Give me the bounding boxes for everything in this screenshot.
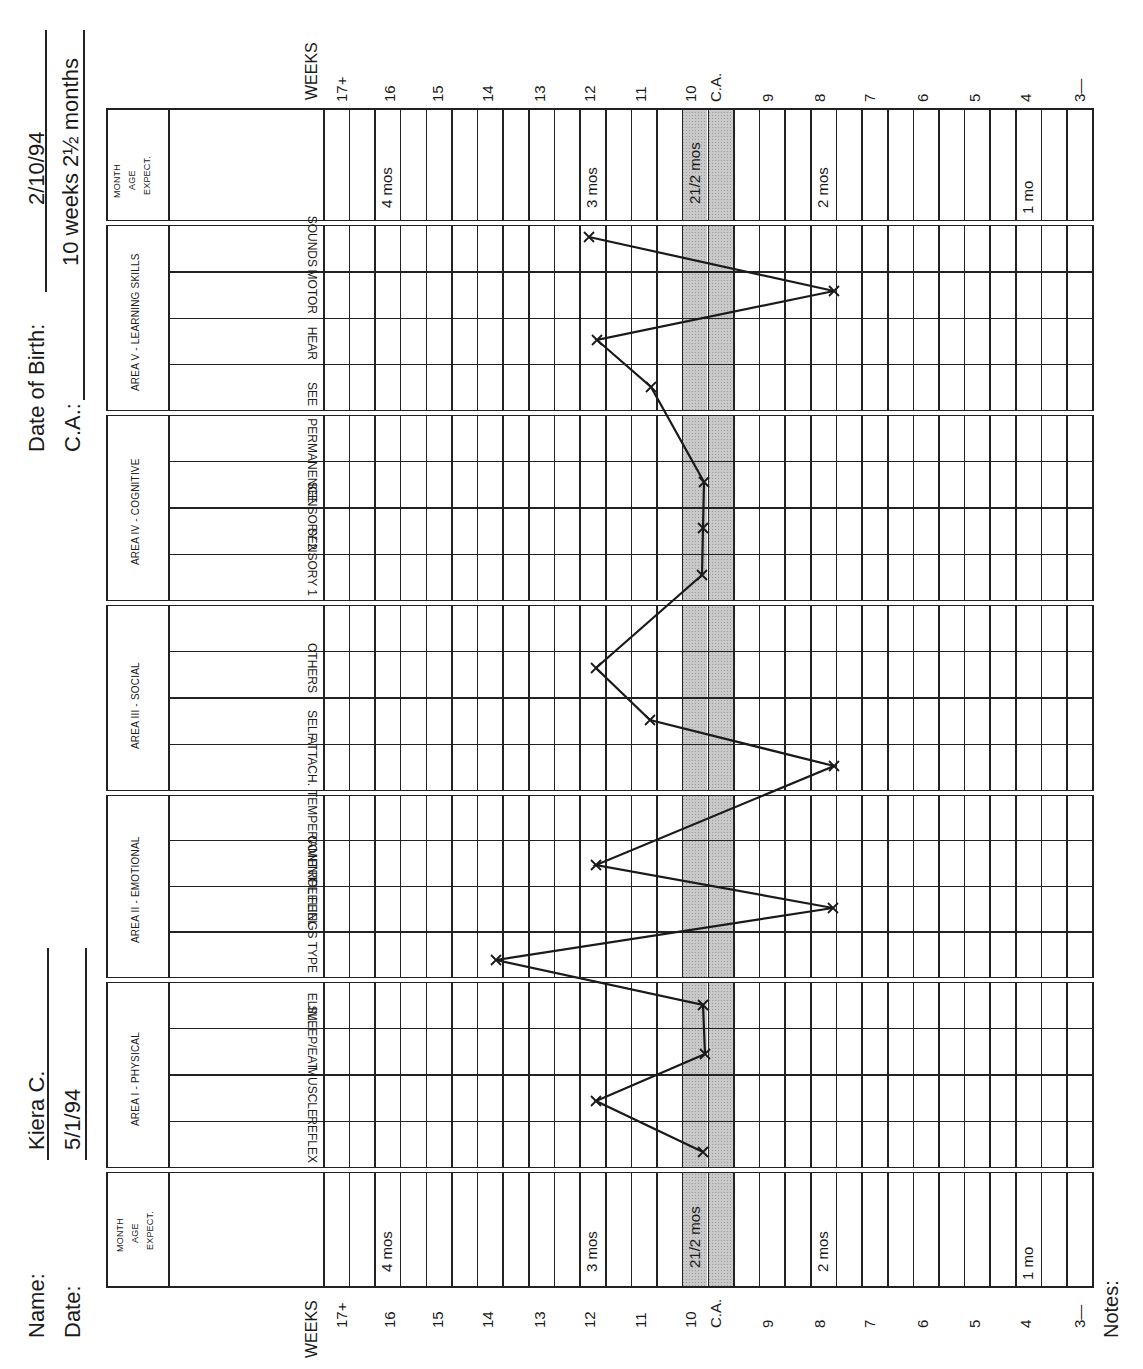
- data-point-x-marker: [646, 382, 656, 392]
- data-point-x-marker: [591, 1096, 601, 1106]
- profile-line-plot: [0, 0, 1143, 1369]
- profile-line: [496, 237, 834, 1152]
- data-point-x-marker: [698, 1147, 708, 1157]
- data-point-x-marker: [591, 663, 601, 673]
